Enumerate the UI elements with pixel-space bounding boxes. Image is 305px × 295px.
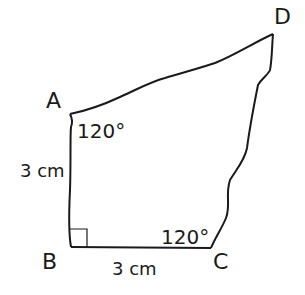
- edge-ab: [69, 114, 72, 247]
- edge-da: [70, 34, 273, 114]
- side-label-bc: 3 cm: [112, 258, 157, 279]
- vertex-label-a: A: [46, 88, 61, 113]
- angle-label-a: 120°: [77, 119, 125, 143]
- side-label-ab: 3 cm: [20, 160, 65, 181]
- vertex-label-b: B: [42, 249, 57, 274]
- vertex-label-d: D: [274, 4, 291, 29]
- angle-label-c: 120°: [161, 225, 209, 249]
- right-angle-marker: [70, 229, 87, 247]
- edge-cd: [211, 34, 273, 248]
- quadrilateral-diagram: A B C D 120° 120° 3 cm 3 cm: [0, 0, 305, 295]
- vertex-label-c: C: [213, 249, 228, 274]
